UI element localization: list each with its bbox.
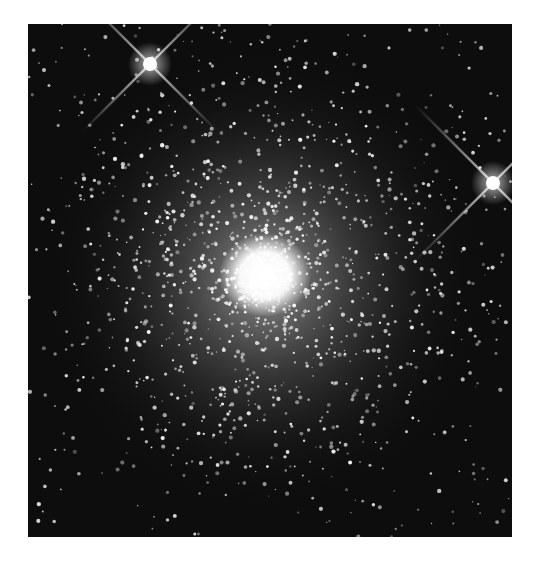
star-field [28,24,512,537]
cluster-core [219,233,311,317]
star-cluster-image [28,24,512,537]
